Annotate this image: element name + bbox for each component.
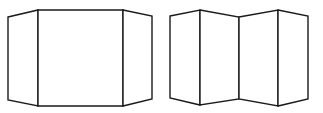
zigzag-panel-1 [170, 10, 200, 105]
right-wing-panel [123, 10, 152, 106]
diagram-canvas [0, 0, 323, 113]
zigzag-panel-2 [200, 10, 239, 105]
four-panel-zigzag-screen [170, 10, 308, 106]
three-panel-screen [8, 10, 152, 106]
zigzag-panel-4 [278, 10, 308, 106]
zigzag-panel-3 [239, 10, 278, 106]
left-wing-panel [8, 10, 38, 106]
center-panel [38, 10, 123, 106]
